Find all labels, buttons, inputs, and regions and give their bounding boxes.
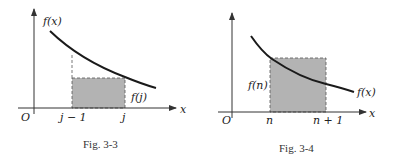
shaded-rectangle: [270, 58, 326, 112]
figure-3-3: f(x) f(j) O j − 1 j x Fig. 3-3: [18, 9, 187, 150]
label-fn: f(n): [247, 79, 268, 92]
label-fj: f(j): [130, 91, 147, 104]
caption: Fig. 3-4: [279, 142, 314, 154]
figure-canvas: f(x) f(j) O j − 1 j x Fig. 3-3 f(n) f(x)…: [0, 0, 394, 157]
label-x: x: [180, 103, 187, 116]
label-fx: f(x): [42, 15, 62, 28]
label-fx: f(x): [356, 86, 376, 99]
figure-3-4: f(n) f(x) O n n + 1 x Fig. 3-4: [218, 13, 376, 154]
caption: Fig. 3-3: [83, 138, 118, 150]
tick-left: n: [266, 114, 273, 127]
tick-right: j: [119, 111, 126, 124]
tick-right: n + 1: [313, 114, 343, 127]
label-origin: O: [21, 111, 30, 124]
tick-left: j − 1: [57, 111, 87, 124]
shaded-rectangle: [72, 78, 125, 108]
label-origin: O: [222, 114, 231, 127]
label-x: x: [369, 107, 376, 120]
